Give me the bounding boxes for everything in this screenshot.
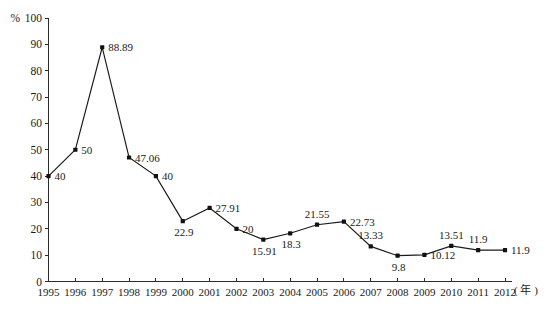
series-point-labels: 405088.8947.064022.927.912015.9118.321.5…: [55, 41, 531, 272]
data-point-label: 11.9: [511, 244, 530, 256]
x-tick-label: 2000: [172, 286, 195, 298]
data-point-marker: [181, 219, 185, 223]
line-chart: 0102030405060708090100 % 199519961997199…: [0, 0, 548, 310]
x-tick-label: 2012: [494, 286, 516, 298]
y-tick-label: 30: [31, 196, 43, 208]
data-point-label: 10.12: [430, 249, 455, 261]
x-tick-label: 2002: [225, 286, 247, 298]
data-point-marker: [395, 254, 399, 258]
x-tick-label: 2001: [199, 286, 221, 298]
chart-canvas: 0102030405060708090100 % 199519961997199…: [0, 0, 548, 310]
y-axis-unit-label: %: [10, 12, 20, 24]
data-point-marker: [261, 237, 265, 241]
x-tick-label: 2007: [360, 286, 383, 298]
series-markers: [46, 45, 507, 258]
x-tick-label: 2009: [413, 286, 436, 298]
data-point-marker: [154, 174, 158, 178]
data-point-label: 18.3: [282, 238, 302, 250]
plot-area: 405088.8947.064022.927.912015.9118.321.5…: [46, 41, 530, 272]
y-tick-label: 50: [31, 144, 43, 156]
data-point-marker: [315, 223, 319, 227]
data-point-marker: [369, 244, 373, 248]
data-point-label: 15.91: [252, 245, 277, 257]
data-point-marker: [100, 45, 104, 49]
data-point-marker: [288, 231, 292, 235]
y-tick-label: 10: [31, 249, 43, 261]
data-point-marker: [208, 206, 212, 210]
x-tick-label: 2006: [333, 286, 356, 298]
y-tick-label: 100: [25, 12, 43, 24]
y-tick-label: 70: [31, 91, 43, 103]
x-tick-label: 2011: [467, 286, 489, 298]
data-point-marker: [342, 220, 346, 224]
y-tick-label: 20: [31, 223, 43, 235]
data-point-label: 13.51: [439, 229, 464, 241]
data-point-label: 40: [162, 170, 174, 182]
y-axis: 0102030405060708090100 %: [10, 12, 48, 288]
data-point-label: 22.9: [174, 226, 194, 238]
data-point-marker: [234, 227, 238, 231]
data-point-marker: [503, 248, 507, 252]
data-point-marker: [476, 248, 480, 252]
x-axis-ticks: [49, 278, 506, 282]
y-axis-tick-labels: 0102030405060708090100: [25, 12, 43, 288]
y-tick-label: 90: [31, 38, 43, 50]
data-point-label: 20: [242, 223, 254, 235]
x-tick-label: 2010: [440, 286, 463, 298]
x-axis-unit-label: ( 年 ): [514, 283, 538, 297]
x-tick-label: 2008: [387, 286, 410, 298]
data-point-marker: [73, 148, 77, 152]
y-tick-label: 80: [31, 65, 43, 77]
x-tick-label: 1996: [64, 286, 87, 298]
x-tick-label: 2005: [306, 286, 329, 298]
x-axis-tick-labels: 1995199619971998199920002001200220032004…: [38, 286, 517, 298]
x-tick-label: 1997: [91, 286, 114, 298]
data-point-label: 21.55: [305, 208, 330, 220]
x-tick-label: 1999: [145, 286, 168, 298]
x-tick-label: 2004: [279, 286, 302, 298]
y-tick-label: 60: [31, 117, 43, 129]
x-tick-label: 1998: [118, 286, 141, 298]
data-point-label: 27.91: [216, 202, 241, 214]
data-point-marker: [449, 244, 453, 248]
data-point-label: 11.9: [469, 233, 488, 245]
y-axis-ticks: [45, 18, 49, 282]
x-tick-label: 2003: [252, 286, 275, 298]
data-point-label: 13.33: [358, 229, 383, 241]
x-tick-label: 1995: [38, 286, 61, 298]
data-point-marker: [422, 253, 426, 257]
y-tick-label: 40: [31, 170, 43, 182]
data-point-label: 40: [55, 170, 67, 182]
data-point-label: 22.73: [350, 216, 375, 228]
x-axis: 1995199619971998199920002001200220032004…: [38, 278, 539, 298]
data-point-marker: [46, 174, 50, 178]
data-point-label: 50: [81, 144, 93, 156]
data-point-marker: [127, 155, 131, 159]
data-point-label: 9.8: [392, 261, 406, 273]
data-point-label: 88.89: [108, 41, 133, 53]
data-point-label: 47.06: [135, 152, 160, 164]
series-line-path: [49, 47, 506, 255]
